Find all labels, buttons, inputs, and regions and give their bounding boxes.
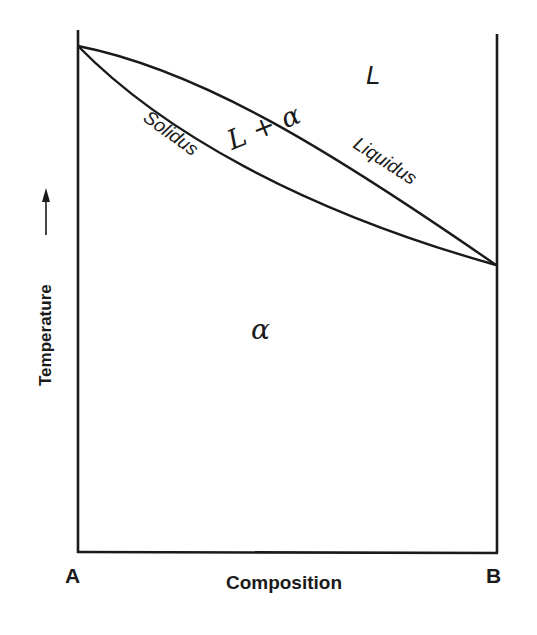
temperature-arrow-icon [42,188,50,235]
bottom-axis-line [77,552,498,553]
liquid-region-label: L [366,60,380,90]
solid-region-label: α [251,313,270,346]
solidus-label: Solidus [140,106,203,160]
liquidus-label: Liquidus [350,133,421,189]
x-axis-label: Composition [226,572,342,593]
solidus-curve [78,46,496,265]
endpoint-b-label: B [486,564,501,587]
two-phase-region-label-group: L + α [222,98,305,156]
liquidus-curve [78,46,496,265]
y-axis-label: Temperature [36,284,55,386]
endpoint-a-label: A [65,564,80,587]
liquidus-label-group: Liquidus [350,133,421,189]
y-axis-label-group: Temperature [36,284,55,386]
solidus-label-group: Solidus [140,106,203,160]
phase-diagram: L L + α α Solidus Liquidus Temperature C… [0,0,537,635]
two-phase-region-label: L + α [222,98,305,156]
